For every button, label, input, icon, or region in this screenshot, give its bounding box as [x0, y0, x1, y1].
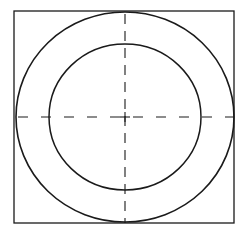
diagram-canvas — [0, 0, 243, 233]
ring-in-square-diagram — [0, 0, 243, 233]
